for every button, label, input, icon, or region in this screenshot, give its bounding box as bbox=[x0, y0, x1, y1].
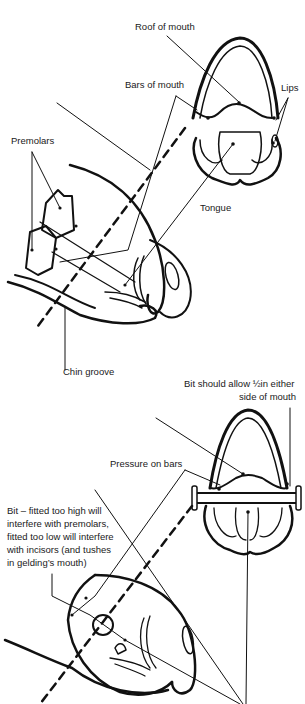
label-chin-groove: Chin groove bbox=[63, 366, 114, 378]
label-bars-of-mouth: Bars of mouth bbox=[125, 79, 184, 91]
label-bit-note-line4: with incisors (and tushes bbox=[7, 544, 111, 556]
label-tongue: Tongue bbox=[200, 202, 231, 214]
bottom-mouth-front-view bbox=[192, 410, 301, 554]
label-bit-allowance-line2: side of mouth bbox=[239, 391, 296, 403]
diagram-canvas bbox=[0, 0, 305, 704]
label-roof-of-mouth: Roof of mouth bbox=[135, 21, 195, 33]
label-bit-note-line3: fitted too low will interfere bbox=[7, 531, 114, 543]
label-bit-allowance-line1: Bit should allow ½in either bbox=[184, 378, 294, 390]
bottom-head-side-view bbox=[5, 408, 290, 704]
label-pressure-on-bars: Pressure on bars bbox=[110, 458, 182, 470]
label-bit-note-line5: in gelding’s mouth) bbox=[7, 557, 87, 569]
label-premolars: Premolars bbox=[11, 135, 54, 147]
bit-bar bbox=[194, 493, 300, 503]
bit-ring-right bbox=[296, 486, 301, 510]
label-lips: Lips bbox=[281, 82, 298, 94]
top-mouth-front-view bbox=[193, 38, 281, 184]
label-bit-note-line2: interfere with premolars, bbox=[7, 518, 109, 530]
label-bit-note-line1: Bit – fitted too high will bbox=[7, 505, 102, 517]
